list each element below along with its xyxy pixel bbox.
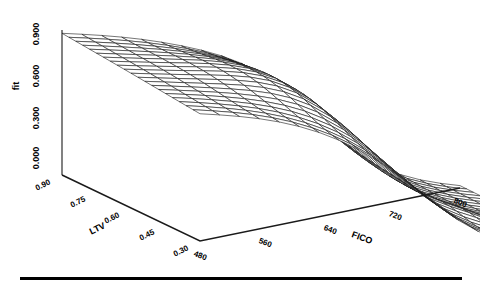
y-axis-tick-2: 0.600 [31,60,41,92]
y-axis-tick-1: 0.300 [31,102,41,134]
y-axis-tick-0: 0.000 [31,142,41,174]
bottom-horizontal-rule [20,277,462,280]
y-axis-tick-3: 0.900 [31,18,41,50]
wireframe-surface-svg [0,0,480,291]
y-axis-title: fit [11,82,21,91]
surface-plot-figure: fit 0.000 0.300 0.600 0.900 480 560 640 … [0,0,480,291]
